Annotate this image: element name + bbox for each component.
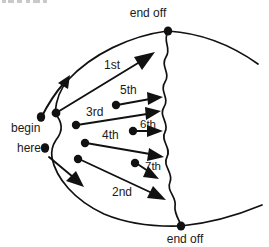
- end-off-dot-top: [164, 26, 172, 35]
- outer-curve-top-right: [168, 31, 258, 64]
- label-5th: 5th: [120, 83, 137, 97]
- dot-lower-unlabeled: [74, 155, 82, 163]
- dot-5th: [112, 101, 120, 109]
- stitch-order-diagram: begin here end off end off 1st 2nd 3rd 4…: [0, 0, 269, 247]
- label-4th: 4th: [102, 128, 119, 142]
- diagram-canvas: begin here end off end off 1st 2nd 3rd 4…: [0, 0, 269, 247]
- label-7th: 7th: [145, 160, 161, 172]
- label-6th: 6th: [140, 118, 156, 130]
- label-end-off-top: end off: [130, 6, 167, 20]
- end-off-dot-bottom: [177, 221, 185, 230]
- arrow-4th: [81, 139, 164, 161]
- begin-dot-inner-upper: [52, 109, 61, 118]
- dot-3rd: [72, 121, 80, 129]
- begin-dot-lower: [41, 143, 49, 153]
- dot-7th: [131, 159, 139, 167]
- label-2nd: 2nd: [112, 185, 132, 199]
- wavy-center-line: [162, 32, 181, 225]
- label-end-off-bottom: end off: [167, 232, 204, 246]
- label-begin-line2: here: [17, 141, 41, 155]
- dot-6th: [129, 127, 137, 135]
- outer-curve-bottom-right: [181, 205, 262, 226]
- clipped-text-remnant: [2, 0, 47, 3]
- label-3rd: 3rd: [86, 105, 103, 119]
- dot-4th: [81, 139, 89, 147]
- outline-left-notch: [52, 113, 62, 158]
- label-1st: 1st: [104, 58, 121, 72]
- label-begin-line1: begin: [11, 121, 40, 135]
